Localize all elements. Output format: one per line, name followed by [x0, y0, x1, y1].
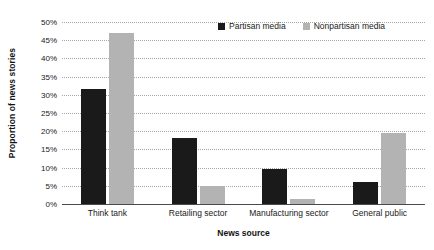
y-axis-title: Proportion of news stories	[7, 23, 17, 183]
y-axis-tick-label: 15%	[41, 145, 57, 154]
legend-label: Partisan media	[229, 21, 286, 31]
y-axis-tick-label: 25%	[41, 109, 57, 118]
y-axis-tick-label: 5%	[45, 181, 57, 190]
bar-group	[244, 22, 335, 204]
y-axis-tick-label: 35%	[41, 72, 57, 81]
y-axis-tick-label: 0%	[45, 200, 57, 209]
bar-chart: Proportion of news stories 50%45%40%35%3…	[0, 0, 434, 250]
y-axis-tick-label: 10%	[41, 163, 57, 172]
legend-swatch-icon	[218, 23, 225, 30]
y-axis-tick-label: 30%	[41, 90, 57, 99]
bar	[353, 182, 378, 204]
x-axis-tick-label-3: General public	[334, 208, 425, 218]
axis-baseline	[62, 204, 425, 205]
y-axis-tick-label: 45%	[41, 36, 57, 45]
x-axis-tick-label-1: Retailing sector	[153, 208, 244, 218]
x-axis-title: News source	[62, 228, 425, 238]
bar	[381, 133, 406, 204]
x-axis-tick-labels: Think tankRetailing sectorManufacturing …	[62, 208, 425, 218]
bar	[290, 199, 315, 204]
y-axis-tick-label: 40%	[41, 54, 57, 63]
y-axis-tick-label: 50%	[41, 18, 57, 27]
legend-label: Nonpartisan media	[314, 21, 385, 31]
x-axis-tick-label-2: Manufacturing sector	[244, 208, 335, 218]
legend: Partisan mediaNonpartisan media	[218, 21, 385, 31]
bar	[172, 138, 197, 204]
bar-group	[62, 22, 153, 204]
legend-item: Nonpartisan media	[303, 21, 385, 31]
x-axis-tick-label-0: Think tank	[62, 208, 153, 218]
bar-group	[153, 22, 244, 204]
legend-item: Partisan media	[218, 21, 286, 31]
bar	[81, 89, 106, 204]
y-axis-tick-label: 20%	[41, 127, 57, 136]
bar	[200, 186, 225, 204]
plot-area: 50%45%40%35%30%25%20%15%10%5%0%	[62, 22, 425, 204]
legend-swatch-icon	[303, 23, 310, 30]
bar	[109, 33, 134, 204]
bar-group	[334, 22, 425, 204]
bar-groups	[62, 22, 425, 204]
bar	[262, 169, 287, 204]
